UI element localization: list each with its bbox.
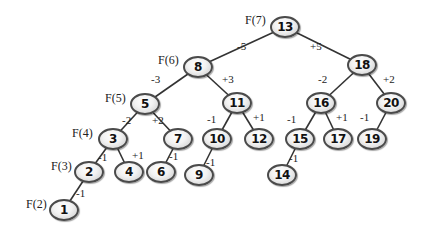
edge-label: -1 bbox=[287, 114, 296, 125]
tree-node-2: 2 bbox=[74, 161, 104, 183]
tree-node-7: 7 bbox=[163, 128, 193, 150]
node-value: 4 bbox=[125, 165, 133, 179]
tree-node-14: 14 bbox=[267, 164, 297, 186]
tree-node-10: 10 bbox=[202, 128, 232, 150]
tree-node-20: 20 bbox=[376, 92, 406, 114]
fibonacci-label: F(3) bbox=[51, 160, 72, 172]
tree-diagram: -5+5-3+3-2+2-2+2-1+1-1+1-1-1+1-1-1-1-1F(… bbox=[0, 0, 426, 236]
tree-node-6: 6 bbox=[146, 161, 176, 183]
node-value: 19 bbox=[364, 132, 380, 146]
edge-label: +1 bbox=[336, 112, 348, 123]
edge-label: -3 bbox=[151, 74, 160, 85]
node-value: 10 bbox=[209, 132, 225, 146]
fibonacci-label: F(6) bbox=[158, 54, 179, 66]
node-value: 3 bbox=[109, 132, 117, 146]
node-value: 8 bbox=[194, 60, 202, 74]
tree-node-3: 3 bbox=[98, 128, 128, 150]
node-value: 16 bbox=[313, 96, 329, 110]
edge-label: -1 bbox=[289, 153, 298, 164]
edge-label: +5 bbox=[310, 41, 322, 52]
node-value: 15 bbox=[292, 132, 308, 146]
node-value: 2 bbox=[85, 165, 93, 179]
edge-label: +3 bbox=[222, 74, 234, 85]
node-value: 7 bbox=[174, 132, 182, 146]
tree-node-8: 8 bbox=[183, 56, 213, 78]
edge-label: +2 bbox=[383, 74, 395, 85]
tree-node-5: 5 bbox=[130, 93, 160, 115]
node-value: 5 bbox=[141, 97, 149, 111]
edge-label: -2 bbox=[122, 115, 131, 126]
node-value: 14 bbox=[274, 168, 290, 182]
fibonacci-label: F(7) bbox=[245, 14, 266, 26]
fibonacci-label: F(4) bbox=[72, 127, 93, 139]
tree-node-16: 16 bbox=[306, 92, 336, 114]
fibonacci-label: F(2) bbox=[26, 198, 47, 210]
node-value: 13 bbox=[277, 20, 293, 34]
edge-label: +1 bbox=[132, 150, 144, 161]
node-value: 12 bbox=[251, 132, 267, 146]
edge-label: -2 bbox=[318, 74, 327, 85]
edge-label: +2 bbox=[152, 115, 164, 126]
node-value: 20 bbox=[383, 96, 399, 110]
node-value: 6 bbox=[157, 165, 165, 179]
edge-label: -5 bbox=[237, 41, 246, 52]
edge-label: -1 bbox=[207, 114, 216, 125]
edge-label: -1 bbox=[98, 152, 107, 163]
tree-node-15: 15 bbox=[285, 128, 315, 150]
node-value: 9 bbox=[195, 168, 203, 182]
edge-label: -1 bbox=[360, 112, 369, 123]
tree-node-18: 18 bbox=[347, 54, 377, 76]
node-value: 17 bbox=[330, 132, 346, 146]
tree-node-11: 11 bbox=[222, 92, 252, 114]
edge-label: -1 bbox=[76, 188, 85, 199]
node-value: 18 bbox=[354, 58, 370, 72]
edge-label: -1 bbox=[169, 151, 178, 162]
tree-node-1: 1 bbox=[49, 199, 79, 221]
tree-node-4: 4 bbox=[114, 161, 144, 183]
edge-label: +1 bbox=[253, 112, 265, 123]
tree-node-9: 9 bbox=[184, 164, 214, 186]
node-value: 11 bbox=[229, 96, 245, 110]
tree-node-19: 19 bbox=[357, 128, 387, 150]
tree-node-12: 12 bbox=[244, 128, 274, 150]
fibonacci-label: F(5) bbox=[105, 92, 126, 104]
tree-node-13: 13 bbox=[270, 16, 300, 38]
node-value: 1 bbox=[60, 203, 68, 217]
tree-node-17: 17 bbox=[323, 128, 353, 150]
